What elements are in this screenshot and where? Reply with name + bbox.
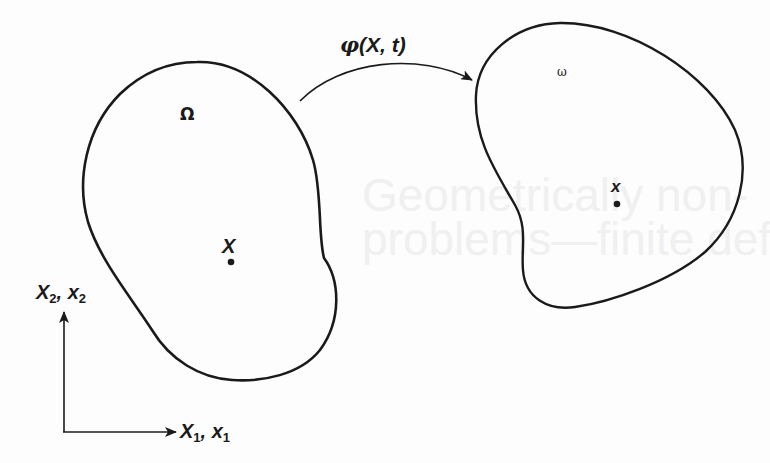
- axis2-separator: ,: [57, 281, 68, 303]
- axis2-upper-base: X: [36, 281, 49, 303]
- spatial-point-label: x: [611, 178, 620, 195]
- axis2-lower-base: x: [68, 281, 79, 303]
- current-body-boundary: [476, 23, 743, 308]
- reference-body-boundary: [83, 62, 336, 380]
- current-region-label: ω: [557, 66, 567, 78]
- axis1-upper-base: X: [180, 420, 193, 442]
- mapping-function-symbol: φ: [340, 32, 359, 57]
- axis1-lower-sub: 1: [223, 430, 230, 445]
- axis1-upper-sub: 1: [193, 430, 200, 445]
- axis1-lower-base: x: [212, 420, 223, 442]
- reference-region-label: Ω: [180, 106, 194, 123]
- diagram-canvas: Geometrically non- problems—finite defor…: [0, 0, 770, 463]
- axis2-upper-sub: 2: [49, 291, 56, 306]
- axis1-separator: ,: [201, 420, 212, 442]
- mapping-arguments: (X, t): [359, 33, 406, 56]
- horizontal-axis-label: X1, x1: [180, 421, 230, 444]
- diagram-svg: [0, 0, 770, 463]
- vertical-axis-label: X2, x2: [36, 282, 86, 305]
- axis2-lower-sub: 2: [79, 291, 86, 306]
- mapping-arrow: [300, 63, 472, 101]
- spatial-point-x-dot: [614, 201, 621, 208]
- material-point-label: X: [222, 236, 235, 256]
- material-point-X-dot: [228, 259, 235, 266]
- mapping-label: φ(X, t): [340, 34, 406, 55]
